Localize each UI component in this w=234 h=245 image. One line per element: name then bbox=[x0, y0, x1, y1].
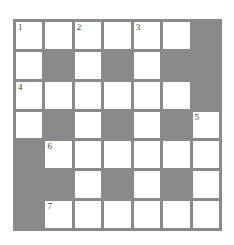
crossword-cell[interactable] bbox=[104, 22, 130, 49]
block-cell bbox=[104, 112, 130, 139]
crossword-cell[interactable] bbox=[163, 82, 189, 109]
clue-number: 6 bbox=[47, 142, 52, 151]
crossword-cell[interactable]: 7 bbox=[45, 201, 71, 228]
crossword-cell[interactable] bbox=[75, 82, 101, 109]
block-cell bbox=[16, 201, 42, 228]
crossword-cell[interactable] bbox=[163, 141, 189, 168]
crossword-cell[interactable] bbox=[75, 112, 101, 139]
crossword-cell[interactable]: 6 bbox=[45, 141, 71, 168]
crossword-grid: 1234567 bbox=[13, 19, 222, 231]
crossword-cell[interactable] bbox=[163, 201, 189, 228]
clue-number: 2 bbox=[77, 23, 82, 32]
crossword-cell[interactable] bbox=[134, 171, 160, 198]
crossword-cell[interactable] bbox=[134, 201, 160, 228]
crossword-cell[interactable] bbox=[104, 201, 130, 228]
block-cell bbox=[45, 171, 71, 198]
block-cell bbox=[193, 22, 219, 49]
crossword-cell[interactable]: 5 bbox=[193, 112, 219, 139]
block-cell bbox=[163, 52, 189, 79]
crossword-cell[interactable] bbox=[193, 171, 219, 198]
crossword-cell[interactable]: 4 bbox=[16, 82, 42, 109]
block-cell bbox=[163, 112, 189, 139]
crossword-cell[interactable] bbox=[75, 171, 101, 198]
block-cell bbox=[193, 82, 219, 109]
clue-number: 7 bbox=[47, 202, 52, 211]
block-cell bbox=[45, 112, 71, 139]
block-cell bbox=[16, 141, 42, 168]
block-cell bbox=[104, 171, 130, 198]
clue-number: 1 bbox=[18, 23, 23, 32]
clue-number: 3 bbox=[136, 23, 141, 32]
crossword-cell[interactable] bbox=[193, 201, 219, 228]
crossword-cell[interactable] bbox=[75, 141, 101, 168]
crossword-cell[interactable] bbox=[163, 22, 189, 49]
clue-number: 4 bbox=[18, 83, 23, 92]
crossword-cell[interactable] bbox=[45, 82, 71, 109]
block-cell bbox=[193, 52, 219, 79]
crossword-cell[interactable] bbox=[104, 82, 130, 109]
crossword-cell[interactable] bbox=[75, 52, 101, 79]
crossword-cell[interactable] bbox=[16, 52, 42, 79]
crossword-cell[interactable]: 3 bbox=[134, 22, 160, 49]
block-cell bbox=[45, 52, 71, 79]
crossword-cell[interactable] bbox=[193, 141, 219, 168]
crossword-cell[interactable]: 1 bbox=[16, 22, 42, 49]
block-cell bbox=[16, 171, 42, 198]
crossword-cell[interactable] bbox=[134, 141, 160, 168]
crossword-cell[interactable] bbox=[104, 141, 130, 168]
crossword-cell[interactable] bbox=[134, 82, 160, 109]
block-cell bbox=[163, 171, 189, 198]
crossword-cell[interactable] bbox=[134, 52, 160, 79]
crossword-cell[interactable] bbox=[16, 112, 42, 139]
crossword-cell[interactable] bbox=[45, 22, 71, 49]
crossword-cell[interactable] bbox=[134, 112, 160, 139]
clue-number: 5 bbox=[195, 113, 200, 122]
crossword-cell[interactable] bbox=[75, 201, 101, 228]
block-cell bbox=[104, 52, 130, 79]
crossword-cell[interactable]: 2 bbox=[75, 22, 101, 49]
